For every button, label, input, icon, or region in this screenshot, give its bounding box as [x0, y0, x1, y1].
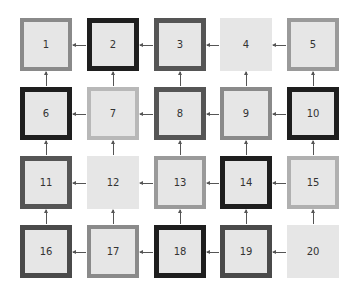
grid-cell-1: 1: [20, 18, 72, 71]
grid-cell-20: 20: [287, 225, 339, 278]
grid-cell-14: 14: [220, 156, 272, 209]
cell-label: 19: [240, 246, 253, 257]
arrow-left: [207, 252, 219, 253]
arrow-up: [46, 72, 47, 86]
grid-cell-5: 5: [287, 18, 339, 71]
arrow-left: [73, 45, 86, 46]
grid-cell-2: 2: [87, 18, 139, 71]
arrow-up: [246, 72, 247, 86]
grid-cell-19: 19: [220, 225, 272, 278]
cell-label: 15: [307, 177, 320, 188]
arrow-left: [73, 183, 86, 184]
cell-label: 11: [40, 177, 53, 188]
grid-cell-10: 10: [287, 87, 339, 140]
cell-label: 14: [240, 177, 253, 188]
arrow-up: [313, 72, 314, 86]
arrow-left: [140, 45, 153, 46]
arrow-left: [73, 114, 86, 115]
arrow-up: [313, 210, 314, 224]
cell-label: 20: [307, 246, 320, 257]
cell-label: 17: [107, 246, 120, 257]
cell-label: 3: [177, 39, 183, 50]
cell-label: 4: [243, 39, 249, 50]
arrow-left: [273, 114, 286, 115]
grid-cell-6: 6: [20, 87, 72, 140]
arrow-up: [180, 141, 181, 155]
grid-cell-15: 15: [287, 156, 339, 209]
cell-label: 16: [40, 246, 53, 257]
arrow-up: [46, 141, 47, 155]
arrow-left: [140, 252, 153, 253]
arrow-up: [113, 72, 114, 86]
grid-cell-7: 7: [87, 87, 139, 140]
arrow-left: [273, 45, 286, 46]
grid-cell-8: 8: [154, 87, 206, 140]
cell-label: 5: [310, 39, 316, 50]
arrow-left: [273, 252, 286, 253]
cell-label: 6: [43, 108, 49, 119]
cell-label: 1: [43, 39, 49, 50]
arrow-left: [140, 114, 153, 115]
arrow-left: [73, 252, 86, 253]
cell-label: 2: [110, 39, 116, 50]
arrow-left: [207, 183, 219, 184]
arrow-up: [113, 210, 114, 224]
cell-label: 12: [107, 177, 120, 188]
arrow-up: [246, 210, 247, 224]
grid-cell-13: 13: [154, 156, 206, 209]
grid-cell-3: 3: [154, 18, 206, 71]
arrow-up: [180, 72, 181, 86]
grid-cell-9: 9: [220, 87, 272, 140]
grid-cell-12: 12: [87, 156, 139, 209]
cell-label: 7: [110, 108, 116, 119]
grid-cell-11: 11: [20, 156, 72, 209]
cell-label: 9: [243, 108, 249, 119]
grid-cell-4: 4: [220, 18, 272, 71]
arrow-up: [46, 210, 47, 224]
cell-label: 13: [174, 177, 187, 188]
arrow-left: [140, 183, 153, 184]
arrow-left: [273, 183, 286, 184]
arrow-left: [207, 45, 219, 46]
grid-cell-18: 18: [154, 225, 206, 278]
arrow-up: [113, 141, 114, 155]
arrow-up: [313, 141, 314, 155]
grid-cell-16: 16: [20, 225, 72, 278]
arrow-left: [207, 114, 219, 115]
arrow-up: [180, 210, 181, 224]
grid-cell-17: 17: [87, 225, 139, 278]
cell-label: 18: [174, 246, 187, 257]
cell-label: 8: [177, 108, 183, 119]
cell-label: 10: [307, 108, 320, 119]
arrow-up: [246, 141, 247, 155]
